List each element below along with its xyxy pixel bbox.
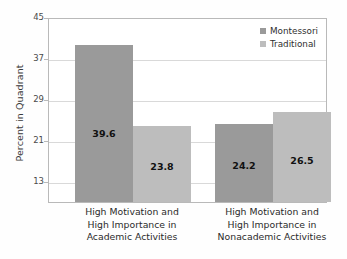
legend-item-traditional: Traditional [260,38,318,51]
category-label-line: Nonacademic Activities [192,231,347,244]
legend-label-montessori: Montessori [270,25,318,38]
bar-value-label: 26.5 [273,155,331,166]
plot-area: 39.623.824.226.5 Montessori Traditional [48,18,327,203]
legend-label-traditional: Traditional [270,38,316,51]
category-label-line: High Importance in [52,219,212,232]
category-label-line: High Importance in [192,219,347,232]
bar-value-label: 39.6 [75,128,133,139]
chart-legend: Montessori Traditional [260,25,318,50]
bar-value-label: 23.8 [133,161,191,172]
bar-chart-figure: Percent in Quadrant 4537292113 39.623.82… [0,0,347,259]
legend-item-montessori: Montessori [260,25,318,38]
bar-traditional: 23.8 [133,126,191,202]
y-tick-label: 29 [22,95,44,104]
y-tick-label: 45 [22,13,44,22]
y-tick-label: 21 [22,136,44,145]
y-tick-label: 13 [22,177,44,186]
category-label-line: High Motivation and [52,206,212,219]
category-label-line: High Motivation and [192,206,347,219]
y-tick-label: 37 [22,54,44,63]
category-label: High Motivation andHigh Importance inAca… [52,206,212,244]
bar-montessori: 39.6 [75,45,133,202]
bar-traditional: 26.5 [273,112,331,202]
legend-swatch-montessori [260,28,266,34]
category-label-line: Academic Activities [52,231,212,244]
bar-value-label: 24.2 [215,160,273,171]
bar-montessori: 24.2 [215,124,273,202]
category-label: High Motivation andHigh Importance inNon… [192,206,347,244]
legend-swatch-traditional [260,41,266,47]
